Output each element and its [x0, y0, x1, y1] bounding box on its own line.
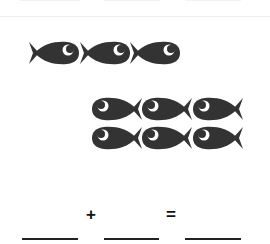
fish-icon: [193, 124, 245, 152]
fish-icon: [128, 39, 180, 67]
fish-icon: [92, 124, 144, 152]
fish-icon: [193, 95, 245, 123]
plus-sign: +: [86, 206, 96, 223]
fish-icon: [142, 95, 194, 123]
equals-sign: =: [166, 206, 176, 223]
answer-blank-2[interactable]: [104, 238, 159, 240]
fish-icon: [92, 95, 144, 123]
fish-icon: [142, 124, 194, 152]
top-edge-line: [104, 0, 160, 1]
top-divider: [0, 16, 270, 17]
top-edge-line: [185, 0, 241, 1]
fish-icon: [78, 39, 130, 67]
top-edge-line: [20, 0, 80, 1]
fish-icon: [27, 39, 79, 67]
answer-blank-1[interactable]: [22, 238, 78, 240]
answer-blank-3[interactable]: [185, 238, 241, 240]
